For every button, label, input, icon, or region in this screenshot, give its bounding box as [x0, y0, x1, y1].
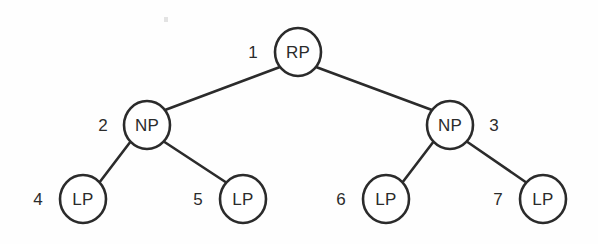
node-label-lp-1: LP — [72, 190, 93, 209]
tree-diagram-canvas: RPNPNPLPLPLPLP 1234567 — [0, 0, 598, 244]
node-index-np-r: 3 — [489, 116, 498, 135]
node-index-root: 1 — [248, 43, 257, 62]
node-label-lp-2: LP — [232, 190, 253, 209]
tree-node-lp-1[interactable]: LP — [60, 175, 106, 223]
node-label-np-l: NP — [135, 116, 159, 135]
node-label-root: RP — [286, 43, 310, 62]
tree-edge-np-l-to-lp-2 — [163, 141, 227, 183]
tree-edge-np-l-to-lp-1 — [99, 141, 131, 183]
tree-node-np-l[interactable]: NP — [124, 101, 170, 149]
node-index-lp-4: 7 — [493, 190, 502, 209]
node-label-lp-4: LP — [532, 190, 553, 209]
tree-edge-root-to-np-l — [165, 67, 280, 110]
tree-node-np-r[interactable]: NP — [427, 101, 473, 149]
node-index-np-l: 2 — [98, 116, 107, 135]
tree-edge-root-to-np-r — [316, 67, 432, 110]
node-label-lp-3: LP — [375, 190, 396, 209]
tree-edge-np-r-to-lp-3 — [402, 141, 434, 183]
node-label-np-r: NP — [438, 116, 462, 135]
tree-node-lp-3[interactable]: LP — [363, 175, 409, 223]
node-index-lp-1: 4 — [33, 190, 42, 209]
tree-node-lp-2[interactable]: LP — [220, 175, 266, 223]
node-index-lp-2: 5 — [193, 190, 202, 209]
scan-speck-artifact — [164, 17, 168, 22]
tree-node-root[interactable]: RP — [275, 28, 321, 76]
tree-edge-np-r-to-lp-4 — [466, 141, 527, 183]
tree-node-lp-4[interactable]: LP — [520, 175, 566, 223]
tree-diagram: RPNPNPLPLPLPLP 1234567 — [0, 0, 598, 244]
node-index-lp-3: 6 — [336, 190, 345, 209]
